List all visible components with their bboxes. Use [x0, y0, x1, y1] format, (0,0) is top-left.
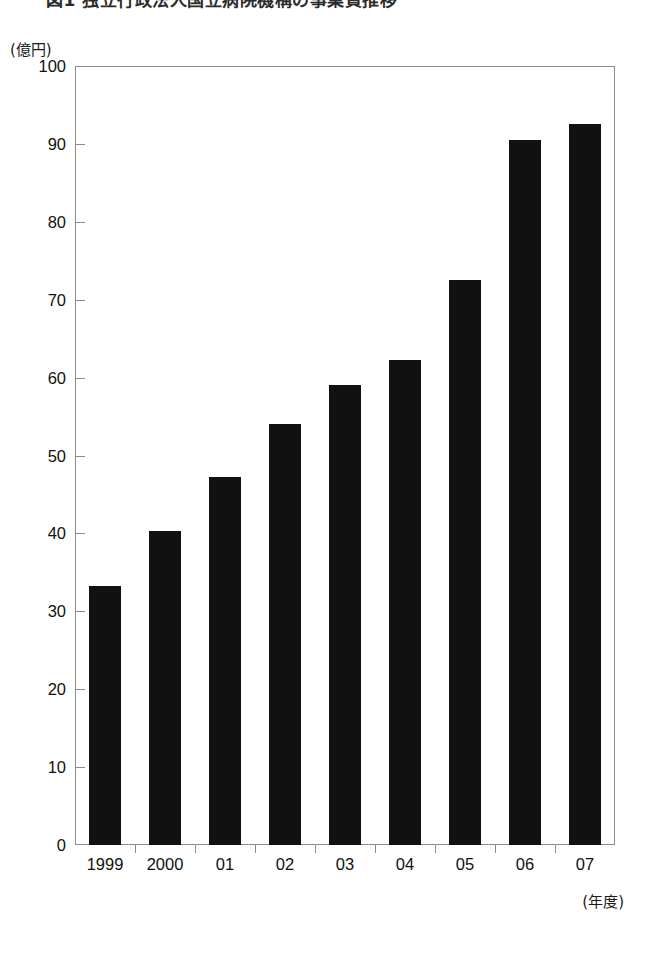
- y-axis-tick-label: 50: [0, 447, 66, 464]
- x-axis-tick-label: 05: [456, 856, 474, 873]
- bar-chart: 1009080706050403020100 19992000010203040…: [0, 0, 648, 955]
- bar: [209, 477, 241, 845]
- y-axis-tick-label: 70: [0, 291, 66, 308]
- x-axis-tick-label: 07: [576, 856, 594, 873]
- y-axis-tick-mark: [76, 222, 85, 223]
- x-axis-tick-mark: [375, 845, 376, 853]
- y-axis-tick-label: 30: [0, 603, 66, 620]
- x-axis-tick-mark: [255, 845, 256, 853]
- y-axis-tick-mark: [76, 533, 85, 534]
- x-axis-tick-label: 04: [396, 856, 414, 873]
- y-axis-tick-mark: [76, 300, 85, 301]
- x-axis-tick-mark: [135, 845, 136, 853]
- y-axis-tick-mark: [76, 144, 85, 145]
- x-axis-tick-label: 06: [516, 856, 534, 873]
- y-axis-tick-label: 40: [0, 525, 66, 542]
- bar: [269, 424, 301, 845]
- x-axis-tick-mark: [495, 845, 496, 853]
- y-axis-tick-mark: [76, 378, 85, 379]
- y-axis-tick-label: 90: [0, 136, 66, 153]
- bar: [509, 140, 541, 845]
- y-axis-tick-label: 60: [0, 369, 66, 386]
- x-axis-tick-label: 03: [336, 856, 354, 873]
- y-axis-tick-label: 10: [0, 759, 66, 776]
- x-axis-tick-mark: [555, 845, 556, 853]
- bar: [149, 531, 181, 845]
- x-axis-tick-label: 02: [276, 856, 294, 873]
- y-axis-tick-label: 20: [0, 681, 66, 698]
- x-axis-tick-mark: [435, 845, 436, 853]
- x-axis-tick-mark: [315, 845, 316, 853]
- y-axis-tick-label: 80: [0, 214, 66, 231]
- bar: [449, 280, 481, 845]
- bar: [389, 360, 421, 845]
- bar: [569, 124, 601, 845]
- y-axis-tick-mark: [76, 767, 85, 768]
- bar: [89, 586, 121, 845]
- y-axis-tick-mark: [76, 689, 85, 690]
- y-axis-tick-mark: [76, 456, 85, 457]
- y-axis-tick-mark: [76, 611, 85, 612]
- x-axis-tick-mark: [195, 845, 196, 853]
- bar: [329, 385, 361, 845]
- x-axis-tick-label: 1999: [87, 856, 124, 873]
- x-axis-tick-label: 2000: [147, 856, 184, 873]
- y-axis-tick-label: 0: [0, 837, 66, 854]
- x-axis-tick-label: 01: [216, 856, 234, 873]
- y-axis-tick-label: 100: [0, 58, 66, 75]
- x-axis-caption: (年度): [582, 890, 624, 911]
